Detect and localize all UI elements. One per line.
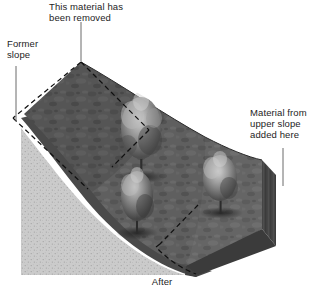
figure-caption: After (0, 276, 324, 287)
figure-container: This material has been removed Former sl… (0, 0, 324, 292)
annotation-material-removed: This material has been removed (49, 1, 123, 23)
annotation-former-slope: Former slope (7, 38, 38, 60)
annotation-added-material: Material from upper slope added here (250, 107, 307, 140)
block-diagram-svg (0, 0, 324, 292)
